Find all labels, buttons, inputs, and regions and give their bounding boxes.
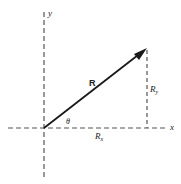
y-axis-label: y bbox=[48, 9, 52, 18]
vector-r-label: R bbox=[89, 79, 96, 88]
ry-label: Ry bbox=[150, 85, 158, 95]
arrowhead-icon bbox=[134, 48, 147, 60]
vector-r-line bbox=[44, 54, 140, 129]
ry-label-sub: y bbox=[156, 89, 159, 95]
x-axis-label: x bbox=[170, 123, 174, 132]
rx-label-sub: x bbox=[101, 136, 104, 142]
rx-label: Rx bbox=[95, 132, 103, 142]
angle-theta-label: θ bbox=[66, 118, 70, 126]
